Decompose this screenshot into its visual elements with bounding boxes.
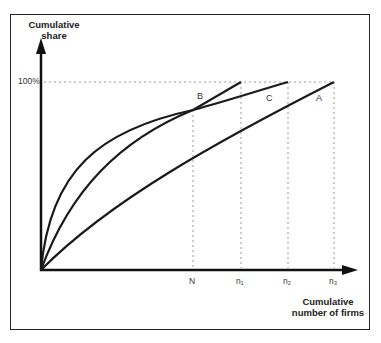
x-axis-arrow-icon [342, 265, 358, 275]
curve-c-label: C [266, 93, 273, 103]
x-axis-label: Cumulative number of firms [284, 296, 372, 318]
curve-b-label: B [197, 91, 203, 101]
y-axis-label-line1: Cumulative [22, 19, 86, 30]
x-tick-n1: n₁ [236, 276, 244, 286]
x-axis-label-line1: Cumulative [284, 296, 372, 307]
x-tick-N: N [189, 276, 195, 286]
x-tick-n3: n₃ [329, 276, 337, 286]
y-tick-100: 100% [18, 76, 40, 86]
curve-a-label: A [316, 93, 322, 103]
x-tick-n2: n₂ [283, 276, 291, 286]
x-axis-label-line2: number of firms [284, 307, 372, 318]
y-axis-label-line2: share [22, 30, 86, 41]
concentration-curves-diagram [0, 0, 381, 343]
y-axis-label: Cumulative share [22, 19, 86, 41]
